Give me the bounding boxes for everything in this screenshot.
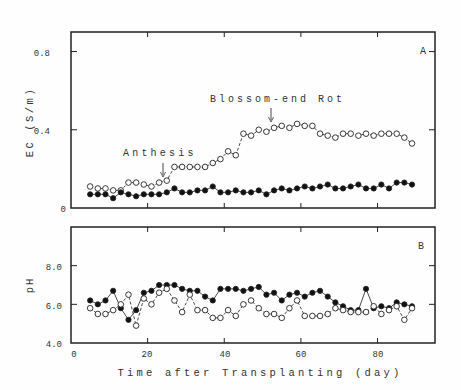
open-circle-marker — [218, 156, 224, 162]
open-circle-marker — [225, 307, 231, 313]
open-circle-marker — [118, 302, 124, 308]
open-circle-marker — [294, 121, 300, 127]
panel-b-ytick-6: 6.0 — [46, 302, 62, 312]
open-circle-marker — [287, 125, 293, 131]
open-circle-marker — [340, 131, 346, 137]
filled-circle-marker — [271, 290, 276, 295]
filled-circle-marker — [279, 298, 284, 303]
open-circle-marker — [149, 302, 155, 308]
filled-circle-marker — [141, 192, 146, 197]
filled-circle-marker — [172, 186, 177, 191]
x-axis-title: Time after Transplanting (day) — [117, 367, 402, 379]
filled-circle-marker — [157, 282, 162, 287]
filled-circle-marker — [134, 308, 139, 313]
filled-circle-marker — [363, 286, 368, 291]
filled-circle-marker — [95, 192, 100, 197]
filled-circle-marker — [317, 288, 322, 293]
filled-circle-marker — [210, 184, 215, 189]
filled-circle-marker — [409, 182, 414, 187]
panel-b-ylabel: pH — [24, 277, 36, 294]
open-circle-marker — [225, 148, 231, 154]
filled-circle-marker — [233, 286, 238, 291]
open-circle-marker — [210, 315, 216, 321]
open-circle-marker — [149, 184, 155, 190]
open-circle-marker — [356, 133, 362, 139]
open-circle-marker — [241, 131, 247, 137]
open-circle-marker — [363, 309, 369, 315]
open-circle-marker — [302, 313, 308, 319]
filled-circle-marker — [225, 190, 230, 195]
filled-circle-marker — [256, 284, 261, 289]
filled-circle-marker — [386, 186, 391, 191]
open-circle-marker — [233, 152, 239, 158]
filled-circle-marker — [180, 190, 185, 195]
filled-circle-marker — [340, 186, 345, 191]
filled-circle-marker — [88, 192, 93, 197]
xtick-40: 40 — [220, 350, 231, 360]
filled-circle-marker — [310, 290, 315, 295]
open-circle-marker — [302, 123, 308, 129]
open-circle-marker — [95, 311, 101, 317]
panel-b-frame — [71, 227, 435, 343]
open-circle-marker — [218, 315, 224, 321]
panel-b-series — [87, 282, 414, 328]
open-circle-marker — [133, 323, 139, 329]
open-circle-marker — [172, 298, 178, 304]
open-circle-marker — [141, 182, 147, 188]
open-circle-marker — [187, 292, 193, 298]
open-circle-marker — [317, 131, 323, 137]
xtick-20: 20 — [142, 350, 153, 360]
open-circle-marker — [279, 315, 285, 321]
filled-circle-marker — [210, 298, 215, 303]
filled-circle-marker — [103, 192, 108, 197]
open-circle-marker — [348, 309, 354, 315]
filled-circle-marker — [126, 192, 131, 197]
filled-circle-marker — [371, 186, 376, 191]
open-circle-marker — [87, 184, 93, 190]
xtick-0: 0 — [71, 350, 76, 360]
filled-circle-marker — [172, 282, 177, 287]
filled-circle-marker — [195, 288, 200, 293]
open-circle-marker — [179, 309, 185, 315]
open-circle-marker — [179, 164, 185, 170]
open-circle-marker — [95, 186, 101, 192]
filled-circle-marker — [118, 190, 123, 195]
panel-a-series — [87, 121, 414, 201]
filled-circle-marker — [264, 192, 269, 197]
filled-circle-marker — [363, 186, 368, 191]
filled-circle-marker — [203, 294, 208, 299]
open-circle-marker — [333, 135, 339, 141]
panel-b-ytick-8: 8.0 — [46, 263, 62, 273]
filled-circle-marker — [271, 188, 276, 193]
panel-a-ylabel: EC (S/m) — [24, 87, 36, 157]
open-circle-marker — [386, 131, 392, 137]
filled-circle-marker — [103, 298, 108, 303]
filled-circle-marker — [157, 192, 162, 197]
filled-circle-marker — [294, 290, 299, 295]
panel-b-label: B — [418, 241, 424, 252]
filled-circle-marker — [218, 286, 223, 291]
filled-circle-marker — [149, 288, 154, 293]
open-circle-marker — [379, 311, 385, 317]
filled-circle-marker — [310, 186, 315, 191]
filled-circle-marker — [126, 317, 131, 322]
open-circle-marker — [256, 127, 262, 133]
open-circle-marker — [409, 141, 415, 147]
filled-circle-marker — [256, 188, 261, 193]
open-circle-marker — [409, 305, 415, 311]
filled-circle-marker — [394, 180, 399, 185]
filled-circle-marker — [95, 302, 100, 307]
open-circle-marker — [402, 317, 408, 323]
open-circle-marker — [371, 303, 377, 309]
filled-circle-marker — [218, 190, 223, 195]
open-circle-marker — [325, 311, 331, 317]
panel-a-ytick-0.8: 0.8 — [34, 49, 50, 59]
open-circle-marker — [371, 133, 377, 139]
open-circle-marker — [294, 298, 300, 304]
filled-circle-marker — [164, 190, 169, 195]
open-circle-marker — [195, 164, 201, 170]
open-circle-marker — [310, 313, 316, 319]
filled-circle-marker — [248, 286, 253, 291]
open-circle-marker — [394, 303, 400, 309]
open-circle-marker — [325, 133, 331, 139]
